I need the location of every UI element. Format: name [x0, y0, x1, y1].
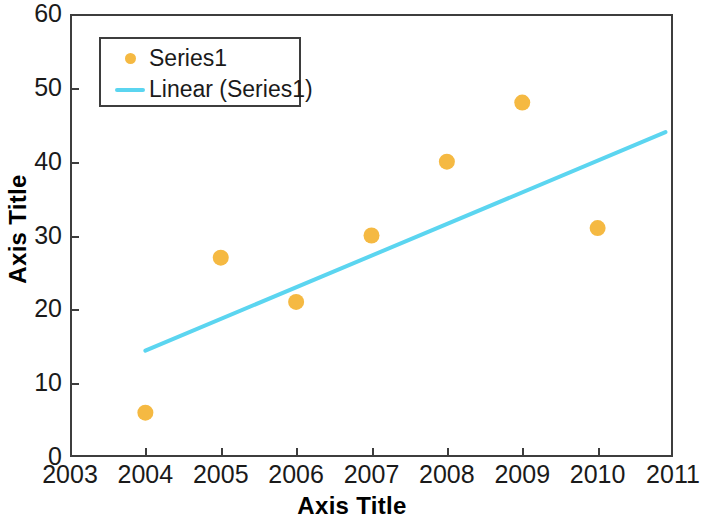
trendline-series — [145, 132, 665, 351]
data-point-marker — [213, 250, 229, 266]
legend-entry-trendline: Linear (Series1) — [101, 74, 299, 105]
legend-label-series1: Series1 — [149, 47, 227, 70]
data-point-marker — [364, 228, 380, 244]
data-point-marker — [590, 220, 606, 236]
chart-legend: Series1 Linear (Series1) — [99, 37, 301, 107]
x-tick-label: 2011 — [628, 462, 704, 487]
y-tick-label: 50 — [10, 75, 62, 100]
legend-entry-series1: Series1 — [101, 43, 299, 74]
x-axis-title: Axis Title — [0, 492, 704, 520]
trendline-path — [145, 132, 665, 351]
chart-container: 0102030405060 20032004200520062007200820… — [0, 0, 704, 521]
data-point-marker — [288, 294, 304, 310]
data-point-marker — [514, 95, 530, 111]
circle-marker-icon — [113, 53, 147, 64]
y-axis-title: Axis Title — [4, 119, 32, 339]
line-swatch-icon — [113, 88, 147, 92]
y-tick-label: 60 — [10, 1, 62, 26]
data-point-marker — [439, 154, 455, 170]
y-tick-label: 10 — [10, 370, 62, 395]
legend-label-trendline: Linear (Series1) — [149, 78, 313, 101]
data-point-marker — [137, 405, 153, 421]
